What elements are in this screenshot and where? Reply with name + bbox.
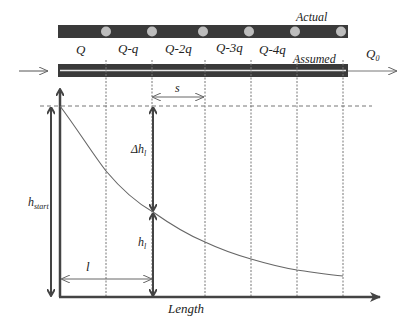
outlet-icon bbox=[147, 27, 157, 37]
flow-label-q: Q bbox=[76, 42, 86, 57]
lateral-pipe-diagram: Actual Q Q-q Q-2q Q-3q Q-4q Assumed Q0 s… bbox=[0, 0, 412, 326]
actual-lateral-bar bbox=[58, 25, 348, 38]
flow-label-q-minus-4q: Q-4q bbox=[259, 42, 286, 57]
head-start-label: hstart bbox=[28, 195, 49, 211]
pressure-head-curve bbox=[60, 106, 343, 276]
actual-label: Actual bbox=[295, 10, 328, 24]
spacing-label: s bbox=[175, 81, 180, 95]
length-segment-label: l bbox=[86, 259, 90, 274]
head-label: hl bbox=[138, 235, 147, 251]
assumed-label: Assumed bbox=[292, 52, 337, 66]
head-loss-label: Δhl bbox=[130, 142, 147, 158]
outlet-reference-lines bbox=[106, 60, 343, 297]
outlet-icon bbox=[290, 27, 300, 37]
outlet-icon bbox=[101, 27, 111, 37]
flow-label-q-minus-2q: Q-2q bbox=[165, 41, 192, 56]
x-axis-label: Length bbox=[167, 301, 204, 316]
outlet-icon bbox=[198, 27, 208, 37]
outflow-label: Q0 bbox=[366, 46, 379, 63]
outlet-icon bbox=[244, 27, 254, 37]
flow-label-q-minus-3q: Q-3q bbox=[216, 40, 243, 55]
outlet-icon bbox=[336, 27, 346, 37]
flow-label-q-minus-q: Q-q bbox=[118, 41, 139, 56]
